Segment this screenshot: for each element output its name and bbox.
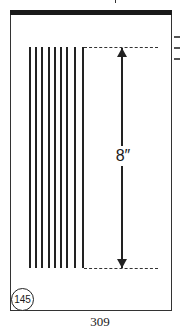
arrow-down-icon	[117, 259, 127, 268]
vertical-line	[74, 47, 76, 268]
vertical-line	[60, 47, 62, 268]
clipped-text-fragment	[174, 47, 180, 49]
vertical-line	[82, 47, 84, 268]
vertical-line	[35, 47, 37, 268]
arrow-up-icon	[117, 48, 127, 57]
vertical-line	[41, 47, 43, 268]
clipped-text-fragment	[174, 58, 180, 60]
vertical-line	[48, 47, 50, 268]
vertical-line	[54, 47, 56, 268]
top-tick-mark	[115, 0, 116, 3]
vertical-line	[66, 47, 68, 268]
page-number: 309	[80, 314, 120, 330]
dimension-label: 8″	[110, 146, 136, 166]
figure-number-badge: 145	[11, 288, 34, 311]
bottom-dashed-guide	[84, 268, 158, 269]
header-bar	[10, 10, 172, 15]
clipped-text-fragment	[174, 36, 180, 38]
vertical-line	[29, 47, 31, 268]
